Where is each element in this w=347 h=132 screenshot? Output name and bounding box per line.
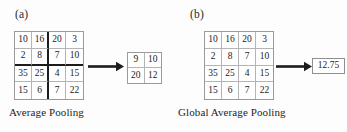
input-cell: 10 (256, 49, 273, 66)
panel-label-b: (b) (190, 8, 204, 20)
input-cell: 15 (256, 66, 273, 83)
input-cell: 4 (49, 66, 66, 83)
input-cell: 16 (222, 32, 239, 49)
input-cell: 7 (239, 49, 256, 66)
output-cell: 12 (145, 68, 162, 83)
input-cell: 10 (205, 32, 222, 49)
input-cell: 7 (49, 49, 66, 66)
input-cell: 2 (205, 49, 222, 66)
input-cell: 10 (15, 32, 32, 49)
input-cell: 6 (222, 82, 239, 99)
input-cell: 7 (49, 82, 66, 99)
input-feature-map-b: 10 16 20 3 2 8 7 10 35 25 4 15 15 6 7 22 (204, 31, 274, 100)
input-cell: 22 (256, 82, 273, 99)
output-cell: 10 (145, 53, 162, 68)
input-cell: 25 (32, 66, 49, 83)
caption-average-pooling: Average Pooling (9, 106, 84, 118)
input-cell: 35 (205, 66, 222, 83)
output-cell: 9 (128, 53, 145, 68)
input-cell: 8 (222, 49, 239, 66)
input-cell: 7 (239, 82, 256, 99)
output-cell: 20 (128, 68, 145, 83)
input-cell: 35 (15, 66, 32, 83)
input-cell: 15 (205, 82, 222, 99)
pooling-figure: (a) 10 16 20 3 2 8 7 10 35 25 4 15 15 6 … (0, 0, 347, 132)
input-cell: 4 (239, 66, 256, 83)
input-cell: 8 (32, 49, 49, 66)
input-cell: 15 (66, 66, 83, 83)
input-cell: 6 (32, 82, 49, 99)
panel-global-average-pooling: (b) 10 16 20 3 2 8 7 10 35 25 4 15 15 6 … (173, 0, 347, 132)
panel-average-pooling: (a) 10 16 20 3 2 8 7 10 35 25 4 15 15 6 … (0, 0, 174, 132)
input-cell: 3 (66, 32, 83, 49)
input-cell: 2 (15, 49, 32, 66)
output-feature-map-a: 9 10 20 12 (127, 52, 162, 84)
input-cell: 16 (32, 32, 49, 49)
caption-global-average-pooling: Global Average Pooling (178, 106, 286, 118)
input-cell: 22 (66, 82, 83, 99)
right-arrow-icon (276, 61, 312, 72)
panel-label-a: (a) (15, 8, 28, 20)
input-cell: 3 (256, 32, 273, 49)
input-cell: 10 (66, 49, 83, 66)
input-feature-map-a: 10 16 20 3 2 8 7 10 35 25 4 15 15 6 7 22 (14, 31, 84, 100)
right-arrow-icon (88, 61, 124, 72)
scalar-output-value: 12.75 (312, 58, 345, 74)
input-cell: 20 (239, 32, 256, 49)
input-cell: 20 (49, 32, 66, 49)
input-cell: 15 (15, 82, 32, 99)
input-cell: 25 (222, 66, 239, 83)
